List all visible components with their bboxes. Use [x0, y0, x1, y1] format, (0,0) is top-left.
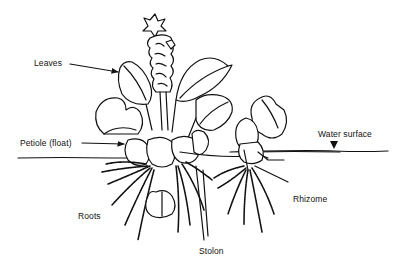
daughter-plant [236, 96, 287, 170]
water-surface-marker-icon [330, 141, 338, 149]
label-petiole: Petiole (float) [20, 139, 72, 148]
label-stolon: Stolon [199, 247, 224, 256]
daughter-bulb [146, 191, 175, 218]
plant-diagram: Leaves Petiole (float) Water surface Rhi… [0, 0, 402, 270]
leaves-leader [70, 64, 118, 72]
petiole-floats [125, 130, 209, 167]
daughter-roots [214, 166, 274, 232]
label-roots: Roots [78, 212, 101, 221]
rhizome-leader [255, 166, 288, 182]
label-leaves: Leaves [34, 59, 62, 68]
stolon-leader [203, 170, 208, 236]
label-water-surface: Water surface [318, 130, 372, 139]
label-rhizome: Rhizome [293, 195, 327, 204]
petiole-leader [82, 143, 124, 144]
